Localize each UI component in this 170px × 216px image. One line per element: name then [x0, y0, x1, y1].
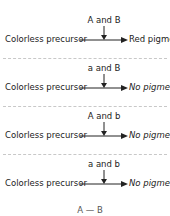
separator — [3, 106, 167, 107]
substrate-label: Colorless precursor — [5, 82, 87, 92]
pathway-row-3: A and b Colorless precursor No pigment — [0, 111, 170, 159]
arrow-right-icon — [80, 180, 128, 188]
pathway-row-2: a and B Colorless precursor No pigment — [0, 63, 170, 111]
separator — [3, 58, 167, 59]
separator — [3, 154, 167, 155]
product-label: Red pigment — [129, 34, 170, 44]
enzyme-label: a and B — [82, 63, 126, 73]
substrate-label: Colorless precursor — [5, 130, 87, 140]
arrow-right-icon — [80, 132, 128, 140]
product-label: No pigment — [129, 130, 170, 140]
enzyme-label: A and b — [82, 111, 126, 121]
substrate-label: Colorless precursor — [5, 178, 87, 188]
partial-label: A — B — [75, 205, 105, 215]
enzyme-label: A and B — [82, 15, 126, 25]
substrate-label: Colorless precursor — [5, 34, 87, 44]
product-label: No pigment — [129, 178, 170, 188]
enzyme-label: a and b — [82, 159, 126, 169]
arrow-right-icon — [80, 84, 128, 92]
arrow-right-icon — [80, 36, 128, 44]
pathway-row-4: a and b Colorless precursor No pigment — [0, 159, 170, 207]
product-label: No pigment — [129, 82, 170, 92]
pathway-row-1: A and B Colorless precursor Red pigment — [0, 15, 170, 63]
